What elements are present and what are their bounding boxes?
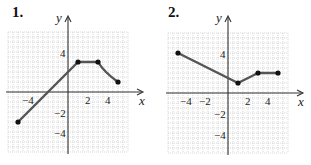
graph-2-xtick-p4: 4 xyxy=(265,95,271,107)
graph-2-problem-label: 2. xyxy=(168,4,180,20)
graph-2-ytick-n4: −4 xyxy=(214,129,226,141)
figure: 1. y x −4 2 4 4 −2 −4 2. y x −4 −2 2 4 4… xyxy=(0,0,311,165)
graph-1-xtick-n4: −4 xyxy=(22,94,34,106)
graph-2-xtick-n4: −4 xyxy=(180,95,192,107)
graph-2-xtick-p2: 2 xyxy=(245,95,251,107)
graph-1-ytick-p4: 4 xyxy=(60,47,66,59)
graph-2-y-label: y xyxy=(214,10,222,25)
graph-1-ytick-n2: −2 xyxy=(54,107,66,119)
graph-2-ytick-p4: 4 xyxy=(220,48,226,60)
graph-1-x-label: x xyxy=(138,93,145,108)
graph-2-point xyxy=(275,70,280,75)
graph-2-ytick-n2: −2 xyxy=(214,108,226,120)
graph-1-y-label: y xyxy=(54,10,62,25)
graph-1-ytick-n4: −4 xyxy=(54,127,66,139)
graph-1-point xyxy=(75,59,80,64)
graph-2-point xyxy=(235,80,240,85)
graph-1-xtick-p4: 4 xyxy=(105,94,111,106)
graph-2-point xyxy=(255,70,260,75)
graph-1-problem-label: 1. xyxy=(12,4,24,20)
graph-2-xtick-n2: −2 xyxy=(199,95,211,107)
graph-1-point xyxy=(95,59,100,64)
graph-1-point xyxy=(115,79,120,84)
graph-1: 1. y x −4 2 4 4 −2 −4 xyxy=(6,4,145,154)
graph-2: 2. y x −4 −2 2 4 4 −2 −4 xyxy=(166,4,304,155)
graph-1-xtick-p2: 2 xyxy=(85,94,91,106)
graph-2-point xyxy=(175,50,180,55)
graph-2-x-label: x xyxy=(297,94,304,109)
graph-1-point xyxy=(15,119,20,124)
